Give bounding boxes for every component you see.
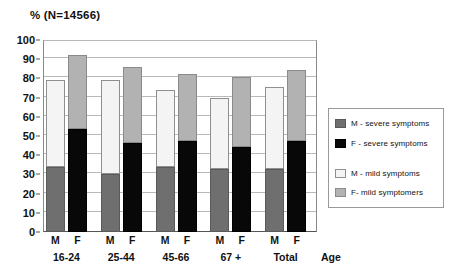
chart-title: % (N=14566) (30, 9, 100, 21)
bar-segment-f-mild (178, 74, 197, 141)
stacked-bar-chart: % (N=14566) 0102030405060708090100 MF16-… (0, 0, 450, 273)
legend-item-f-mild[interactable]: F- mild symptomers (335, 188, 423, 197)
legend-item-f-severe[interactable]: F - severe symptoms (335, 139, 428, 148)
legend-swatch-f-severe-icon (335, 139, 346, 148)
y-tick-label-30: 30 (23, 168, 35, 180)
bar-segment-f-severe (123, 143, 142, 232)
bar-segment-m-mild (265, 87, 284, 169)
bar-m-67 (210, 98, 229, 232)
x-axis-labels: MF16-24MF25-44MF45-66MF67 +MFTotal (43, 234, 317, 273)
y-tick-mark-0 (36, 232, 40, 233)
bar-segment-m-severe (46, 167, 65, 232)
x-sex-label-m-45-66: M (161, 234, 170, 246)
bar-m-45-66 (156, 90, 175, 232)
y-tick-mark-90 (36, 59, 40, 60)
y-tick-mark-60 (36, 116, 40, 117)
bar-f-25-44 (123, 67, 142, 232)
y-tick-mark-100 (36, 40, 40, 41)
bar-segment-m-severe (265, 169, 284, 232)
bar-segment-m-mild (210, 98, 229, 169)
bar-segment-m-mild (46, 80, 65, 166)
x-group-label-45-66: 45-66 (163, 251, 190, 263)
bar-f-16-24 (68, 55, 87, 232)
bar-f-Total (287, 70, 306, 232)
x-sex-label-f-16-24: F (74, 234, 80, 246)
y-tick-label-80: 80 (23, 72, 35, 84)
x-sex-label-f-25-44: F (129, 234, 135, 246)
bar-segment-f-severe (68, 129, 87, 232)
y-tick-mark-40 (36, 155, 40, 156)
legend-swatch-f-mild-icon (335, 188, 346, 197)
legend-item-m-mild[interactable]: M - mild symptoms (335, 169, 420, 178)
bar-f-45-66 (178, 74, 197, 232)
bars-layer (43, 40, 317, 232)
bar-segment-m-mild (156, 90, 175, 167)
legend-label: M - mild symptoms (351, 169, 420, 178)
legend-label: F - severe symptoms (351, 139, 428, 148)
x-sex-label-f-45-66: F (184, 234, 190, 246)
bar-segment-f-mild (123, 67, 142, 143)
y-tick-mark-70 (36, 97, 40, 98)
x-group-label-67: 67 + (220, 251, 241, 263)
x-sex-label-m-Total: M (270, 234, 279, 246)
bar-m-Total (265, 87, 284, 232)
y-tick-mark-10 (36, 212, 40, 213)
bar-segment-f-mild (68, 55, 87, 129)
bar-segment-m-severe (210, 169, 229, 232)
y-tick-label-70: 70 (23, 92, 35, 104)
y-axis: 0102030405060708090100 (10, 40, 40, 232)
x-group-label-Total: Total (273, 251, 297, 263)
bar-segment-f-mild (287, 70, 306, 141)
x-sex-label-m-25-44: M (106, 234, 115, 246)
x-sex-label-f-Total: F (293, 234, 299, 246)
x-sex-label-m-67: M (215, 234, 224, 246)
y-tick-mark-20 (36, 193, 40, 194)
x-sex-label-m-16-24: M (51, 234, 60, 246)
bar-segment-f-severe (178, 141, 197, 232)
y-tick-label-60: 60 (23, 111, 35, 123)
bar-segment-m-severe (156, 167, 175, 232)
y-tick-label-40: 40 (23, 149, 35, 161)
x-group-label-16-24: 16-24 (53, 251, 80, 263)
y-tick-mark-30 (36, 174, 40, 175)
y-tick-label-20: 20 (23, 188, 35, 200)
y-tick-label-0: 0 (29, 226, 35, 238)
y-tick-mark-80 (36, 78, 40, 79)
x-group-label-25-44: 25-44 (108, 251, 135, 263)
legend-item-m-severe[interactable]: M - severe symptoms (335, 119, 429, 128)
y-tick-label-10: 10 (23, 207, 35, 219)
bar-m-25-44 (101, 80, 120, 232)
bar-segment-f-mild (232, 77, 251, 146)
y-tick-label-90: 90 (23, 53, 35, 65)
y-tick-label-50: 50 (23, 130, 35, 142)
legend-label: F- mild symptomers (351, 188, 423, 197)
x-sex-label-f-67: F (239, 234, 245, 246)
bar-m-16-24 (46, 80, 65, 232)
y-tick-mark-50 (36, 136, 40, 137)
bar-segment-m-severe (101, 174, 120, 232)
x-axis-title: Age (321, 251, 341, 263)
y-tick-label-100: 100 (17, 34, 35, 46)
chart-legend: M - severe symptomsF - severe symptomsM … (328, 108, 444, 208)
bar-segment-m-mild (101, 80, 120, 174)
bar-segment-f-severe (232, 147, 251, 232)
legend-swatch-m-severe-icon (335, 119, 346, 128)
bar-segment-f-severe (287, 141, 306, 232)
legend-label: M - severe symptoms (351, 119, 429, 128)
bar-f-67 (232, 77, 251, 232)
legend-swatch-m-mild-icon (335, 169, 346, 178)
